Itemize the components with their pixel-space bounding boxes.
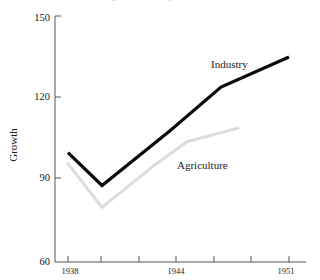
- plot-area: [0, 0, 320, 280]
- chart-figure: Growth of industrial and agricultural ou…: [0, 0, 320, 280]
- series-line-agriculture: [68, 128, 238, 207]
- series-line-industry: [68, 57, 289, 186]
